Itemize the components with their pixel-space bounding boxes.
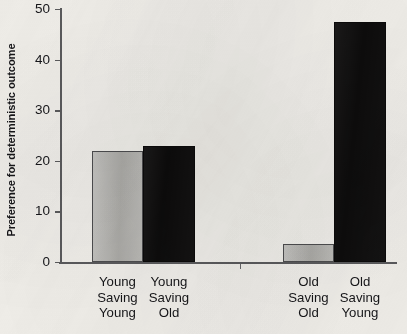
x-tick-label-line-1: Young (134, 274, 204, 290)
x-tick-label-line-3: Old (134, 305, 204, 321)
y-tick-label-20: 20 (35, 154, 50, 168)
y-tick-label-10: 10 (35, 205, 50, 219)
y-tick-label-50: 50 (35, 2, 50, 16)
x-tick-label-line-2: Saving (325, 290, 395, 306)
bar-young-saving-young (92, 151, 143, 262)
x-tick-label-line-3: Young (325, 305, 395, 321)
bar-old-saving-young (334, 22, 386, 262)
y-tick-label-0: 0 (42, 255, 50, 269)
y-tick-label-30: 30 (35, 103, 50, 117)
x-tick-label-young-saving-old: Young Saving Old (134, 274, 204, 321)
y-tick-label-40: 40 (35, 53, 50, 67)
y-axis-line (60, 8, 62, 263)
x-axis-group-separator-tick (240, 263, 241, 269)
x-tick-label-old-saving-young: Old Saving Young (325, 274, 395, 321)
bar-young-saving-old (143, 146, 195, 262)
bar-old-saving-old (283, 244, 334, 262)
bar-chart-figure: Preference for deterministic outcome 0 1… (0, 0, 407, 334)
y-axis-label-container: Preference for deterministic outcome (0, 0, 22, 280)
y-axis-label: Preference for deterministic outcome (5, 44, 17, 237)
plot-area: 0 10 20 30 40 50 (60, 9, 396, 262)
x-axis-line (59, 262, 397, 264)
x-tick-label-line-2: Saving (134, 290, 204, 306)
x-tick-label-line-1: Old (325, 274, 395, 290)
